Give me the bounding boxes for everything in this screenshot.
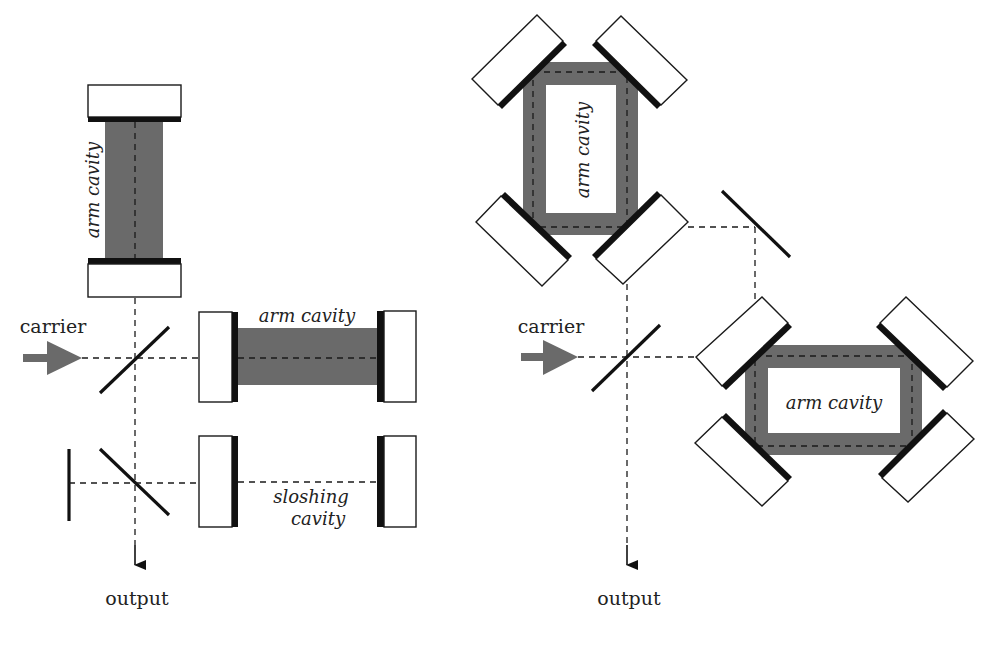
right-carrier-arrow-icon (521, 340, 578, 375)
vertical-arm-end-mirror-coating (88, 117, 181, 122)
horizontal-arm-beam (238, 328, 378, 385)
left-beamsplitter-sloshing (100, 449, 169, 515)
horizontal-arm-input-mirror-coating (232, 312, 238, 402)
interferometer-diagram: arm cavity output carrier arm cavity (0, 0, 993, 659)
vertical-arm-input-mirror (88, 264, 181, 297)
upper-ring-cavity: arm cavity (472, 15, 688, 286)
sloshing-label-line2: cavity (291, 508, 346, 529)
right-beamsplitter (592, 325, 660, 391)
horizontal-arm-cavity: arm cavity (199, 305, 416, 402)
vertical-arm-beam (105, 121, 163, 259)
horizontal-arm-input-mirror (199, 312, 232, 402)
sloshing-label-line1: sloshing (273, 486, 349, 507)
vertical-arm-input-mirror-coating (88, 258, 181, 264)
left-carrier-arrow-icon (23, 341, 82, 375)
sloshing-input-mirror-coating (232, 436, 238, 527)
steering-mirror (722, 191, 790, 257)
sloshing-end-mirror-coating (377, 436, 384, 527)
vertical-arm-cavity: arm cavity (82, 85, 181, 297)
sloshing-cavity: sloshing cavity (199, 436, 416, 529)
left-carrier-label: carrier (20, 315, 87, 337)
horizontal-arm-end-mirror (384, 311, 416, 402)
lower-ring-label: arm cavity (786, 392, 883, 413)
right-output-label: output (597, 587, 661, 609)
sloshing-end-mirror (384, 436, 416, 527)
left-output-label: output (105, 587, 169, 609)
horizontal-arm-label: arm cavity (259, 305, 356, 326)
right-carrier-label: carrier (518, 315, 585, 337)
lower-ring-cavity: arm cavity (695, 297, 974, 506)
upper-ring-label: arm cavity (572, 101, 593, 198)
sloshing-input-mirror (199, 436, 232, 527)
vertical-arm-label: arm cavity (82, 141, 103, 238)
horizontal-arm-end-mirror-coating (377, 311, 384, 402)
right-diagram: arm cavity output carrier (472, 15, 974, 609)
vertical-arm-end-mirror (88, 85, 181, 117)
left-diagram: arm cavity output carrier arm cavity (20, 85, 416, 609)
